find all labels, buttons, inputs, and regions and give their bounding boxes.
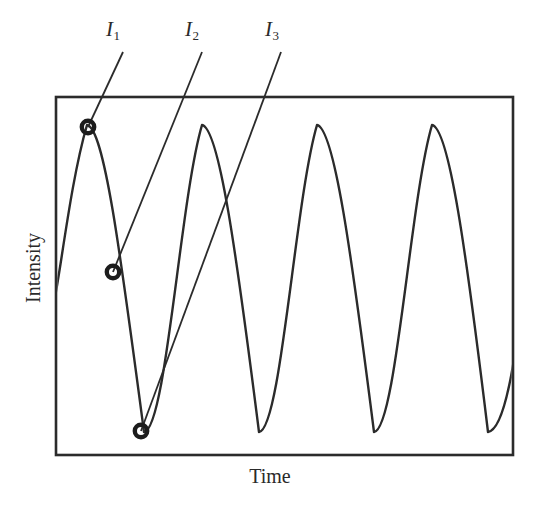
callout-sub-i2: 2 [193, 28, 200, 43]
callout-label-i2: I2 [185, 19, 199, 40]
callout-label-i3: I3 [265, 19, 279, 40]
callout-base-i1: I [106, 17, 113, 41]
callout-sub-i1: 1 [114, 28, 121, 43]
callout-base-i2: I [185, 17, 192, 41]
leader-line-i1 [88, 52, 123, 127]
y-axis-label: Intensity [23, 208, 43, 328]
callout-sub-i3: 3 [273, 28, 280, 43]
leader-line-i2 [113, 52, 202, 272]
callout-label-i1: I1 [106, 19, 120, 40]
figure-canvas [0, 0, 540, 505]
callout-base-i3: I [265, 17, 272, 41]
intensity-waveform [48, 125, 524, 432]
x-axis-label: Time [0, 466, 540, 486]
leader-line-i3 [141, 52, 281, 431]
intensity-vs-time-figure: I1 I2 I3 Time Intensity [0, 0, 540, 505]
